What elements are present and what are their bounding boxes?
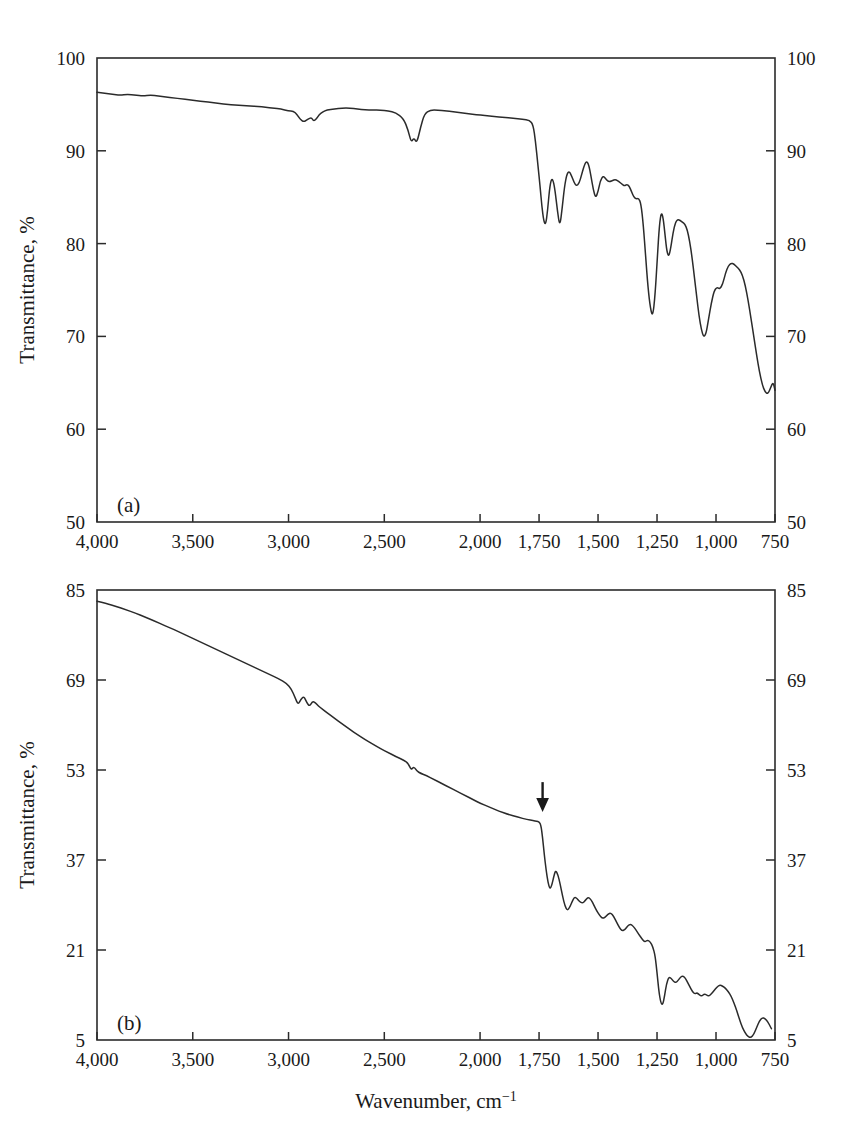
- y-tick-label-right: 80: [787, 234, 806, 255]
- panel-a-y-tick-labels-left: 5060708090100: [57, 48, 86, 533]
- x-tick-label: 750: [761, 1049, 790, 1070]
- panel-b-annotations: [538, 782, 547, 809]
- ftir-figure: 4,0003,5003,0002,5002,0001,7501,5001,250…: [0, 0, 849, 1130]
- panel-a-y-axis-title: Transmittance, %: [15, 216, 39, 363]
- y-tick-label-right: 60: [787, 419, 806, 440]
- spectrum-panel-b: 4,0003,5003,0002,5002,0001,7501,5001,250…: [0, 530, 849, 1130]
- y-tick-label-right: 69: [787, 670, 806, 691]
- panel-a-x-ticks: [97, 514, 775, 522]
- panel-b-plot: 4,0003,5003,0002,5002,0001,7501,5001,250…: [0, 530, 849, 1130]
- x-tick-label: 2,500: [363, 1049, 406, 1070]
- y-tick-label-left: 53: [66, 760, 85, 781]
- x-tick-label: 2,000: [459, 1049, 502, 1070]
- y-tick-label-left: 5: [76, 1030, 86, 1051]
- y-tick-label-right: 53: [787, 760, 806, 781]
- x-tick-label: 3,500: [171, 1049, 214, 1070]
- x-axis-title: Wavenumber, cm−1: [355, 1089, 517, 1114]
- panel-b-tag: (b): [117, 1011, 142, 1035]
- panel-a-spectrum-curve: [97, 92, 775, 393]
- y-tick-label-left: 80: [66, 234, 85, 255]
- panel-b-y-axis-title: Transmittance, %: [15, 741, 39, 888]
- annotation-arrow-head: [538, 799, 547, 809]
- panel-a-y-tick-labels-right: 5060708090100: [787, 48, 816, 533]
- panel-b-x-tick-labels: 4,0003,5003,0002,5002,0001,7501,5001,250…: [76, 1049, 790, 1070]
- panel-b-frame: [97, 590, 775, 1040]
- panel-a-tag: (a): [117, 493, 140, 517]
- y-tick-label-left: 90: [66, 141, 85, 162]
- y-tick-label-left: 85: [66, 580, 85, 601]
- y-tick-label-left: 70: [66, 326, 85, 347]
- x-tick-label: 1,000: [695, 1049, 738, 1070]
- x-tick-label: 1,750: [518, 1049, 561, 1070]
- y-tick-label-left: 21: [66, 940, 85, 961]
- y-tick-label-right: 5: [787, 1030, 797, 1051]
- panel-b-x-ticks: [97, 1032, 775, 1040]
- y-tick-label-right: 37: [787, 850, 806, 871]
- y-tick-label-right: 100: [787, 48, 816, 69]
- panel-a-plot: 4,0003,5003,0002,5002,0001,7501,5001,250…: [0, 0, 849, 560]
- x-tick-label: 4,000: [76, 1049, 119, 1070]
- x-tick-label: 3,000: [267, 1049, 310, 1070]
- y-tick-label-right: 90: [787, 141, 806, 162]
- panel-a-y-ticks: [97, 151, 775, 429]
- panel-b-spectrum-curve: [97, 601, 771, 1037]
- y-tick-label-right: 85: [787, 580, 806, 601]
- y-tick-label-right: 21: [787, 940, 806, 961]
- panel-b-y-tick-labels-left: 52137536985: [66, 580, 85, 1051]
- y-tick-label-right: 70: [787, 326, 806, 347]
- panel-b-y-tick-labels-right: 52137536985: [787, 580, 806, 1051]
- panel-a-frame: [97, 58, 775, 522]
- y-tick-label-left: 69: [66, 670, 85, 691]
- spectrum-panel-a: 4,0003,5003,0002,5002,0001,7501,5001,250…: [0, 0, 849, 560]
- y-tick-label-left: 100: [57, 48, 86, 69]
- y-tick-label-left: 37: [66, 850, 85, 871]
- panel-b-y-ticks: [97, 680, 775, 950]
- x-tick-label: 1,250: [636, 1049, 679, 1070]
- x-tick-label: 1,500: [577, 1049, 620, 1070]
- y-tick-label-left: 60: [66, 419, 85, 440]
